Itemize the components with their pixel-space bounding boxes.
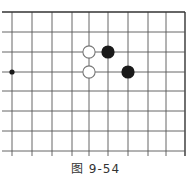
stones [83,45,135,78]
figure-caption: 图 9-54 [0,159,191,176]
black-stone [101,45,114,58]
black-stone [121,65,134,78]
grid-lines [2,12,185,156]
white-stone [83,46,95,58]
star-point-dot [9,69,14,74]
star-points [9,69,14,74]
white-stone [83,66,95,78]
go-board [0,0,191,176]
